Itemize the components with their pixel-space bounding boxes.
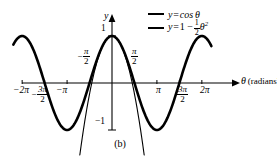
x-tick-label-minus-pi-over-2: −π2 [77,47,90,67]
legend: y = cos θ y = 1 − 12θ2 [148,7,270,35]
x-tick-minus-pi-2-denominator: 2 [83,57,90,66]
x-tick-minus-3pi-2-denominator: 2 [37,95,48,104]
legend-parabola-lead: 1 − [180,21,193,32]
x-axis-label: θ (radians) [241,76,277,87]
x-tick-pi-2-fraction: π2 [131,47,138,67]
y-axis-label-text: y [104,10,108,21]
legend-label-parabola: y = 1 − 12θ2 [168,19,208,37]
legend-item-cosine: y = cos θ [148,7,270,21]
y-tick-label-minus-one: −1 [95,117,105,127]
x-tick-label-minus-pi: −π [56,86,67,96]
x-tick-label-3pi-over-2: 3π2 [177,85,188,105]
x-tick-label-minus-2pi: −2π [13,86,29,96]
legend-parabola-equals: = [173,21,179,32]
y-axis-arrowhead [109,14,116,22]
x-axis-label-unit: (radians) [248,76,277,86]
x-tick-label-pi: π [156,86,161,96]
y-tick-minus-one-text: −1 [95,116,105,126]
x-tick-label-2pi: 2π [200,86,210,96]
x-tick-2pi-text: 2π [200,85,210,95]
x-axis-arrowhead [232,80,240,87]
y-tick-label-one: 1 [101,24,106,34]
y-tick-one-text: 1 [101,23,106,33]
legend-parabola-lhs: y [168,21,172,32]
x-tick-label-pi-over-2: π2 [131,47,138,67]
x-tick-minus-pi-text: −π [56,85,67,95]
y-axis-label: y [104,11,108,21]
legend-cosine-lhs: y [168,9,172,20]
x-tick-3pi-2-fraction: 3π2 [177,85,188,105]
x-tick-pi-2-denominator: 2 [131,57,138,66]
legend-swatch-parabola-icon [148,27,164,28]
figure-caption: (b) [0,138,240,149]
x-tick-label-minus-3pi-over-2: −3π2 [31,85,48,105]
x-tick-3pi-2-denominator: 2 [177,95,188,104]
x-tick-pi-text: π [156,85,161,95]
figure-caption-text: (b) [114,138,126,149]
legend-cosine-equals: = [173,9,179,20]
figure-container: θ (radians) y 1 −1 −2π −π π 2π −3π2 −π2 … [0,0,277,161]
legend-item-parabola: y = 1 − 12θ2 [148,21,270,35]
x-tick-minus-2pi-text: −2π [13,85,29,95]
x-tick-minus-3pi-2-fraction: 3π2 [37,85,48,105]
legend-swatch-cosine-icon [148,13,164,16]
legend-parabola-exponent: 2 [205,20,208,27]
x-tick-minus-pi-2-fraction: π2 [83,47,90,67]
